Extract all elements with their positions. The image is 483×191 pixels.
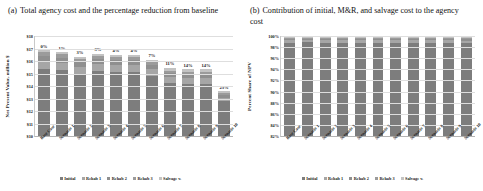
legend-item[interactable]: Salvage v. xyxy=(401,176,424,181)
legend-label: Rehab 2 xyxy=(354,176,369,181)
legend-label: Salvage v. xyxy=(163,176,181,181)
gridline xyxy=(35,36,233,37)
ytick-label: $11 xyxy=(27,121,33,126)
ytick-label: 94% xyxy=(270,67,279,72)
bar-segment-rehab-1 xyxy=(128,65,139,72)
stacked-bar[interactable] xyxy=(182,69,193,136)
gridline xyxy=(35,124,233,125)
bar-segment-initial xyxy=(390,43,401,136)
legend-item[interactable]: Rehab 1 xyxy=(82,176,102,181)
bar-group[interactable] xyxy=(299,36,317,136)
panel-b-title: Contribution of initial, M&R, and salvag… xyxy=(250,6,459,26)
legend-item[interactable]: Salvage v. xyxy=(159,176,182,181)
panel-a-xtick-labels: Base CaseScenario 1Scenario 2Scenario 3S… xyxy=(34,137,233,175)
bar-group[interactable] xyxy=(387,36,405,136)
legend-item[interactable]: Rehab 2 xyxy=(107,176,127,181)
stacked-bar[interactable] xyxy=(461,36,472,136)
panel-b-plot xyxy=(280,36,475,137)
bar-segment-initial xyxy=(56,70,67,136)
legend-label: Rehab 2 xyxy=(112,176,127,181)
panel-b-legend: InitialRehab 1Rehab 2Rehab 3Salvage v. xyxy=(242,172,483,184)
gridline xyxy=(281,36,475,37)
bar-segment-rehab-1 xyxy=(110,65,121,72)
stacked-bar[interactable] xyxy=(337,36,348,136)
stacked-bar[interactable] xyxy=(284,36,295,136)
stacked-bar[interactable] xyxy=(373,36,384,136)
bar-group[interactable] xyxy=(457,36,475,136)
bar-data-label: 14% xyxy=(201,63,210,68)
bar-group[interactable] xyxy=(334,36,352,136)
stacked-bar[interactable] xyxy=(320,36,331,136)
bar-data-label: 14% xyxy=(183,63,192,68)
panel-b-bars xyxy=(281,36,475,136)
legend-swatch-icon xyxy=(133,177,136,180)
bar-group[interactable] xyxy=(404,36,422,136)
bar-segment-initial xyxy=(443,43,454,136)
ytick-label: $17 xyxy=(27,46,33,51)
ytick-label: $18 xyxy=(27,34,33,39)
panel-b-yaxis-title: Percent Share of NPV xyxy=(244,36,254,136)
bar-group[interactable] xyxy=(440,36,458,136)
gridline xyxy=(281,92,475,93)
gridline xyxy=(35,111,233,112)
ytick-label: 96% xyxy=(270,56,279,61)
stacked-bar[interactable] xyxy=(164,68,175,136)
panel-b-xtick-labels: Base CaseScenario 1Scenario 2Scenario 3S… xyxy=(280,137,475,175)
legend-swatch-icon xyxy=(375,177,378,180)
bar-data-label: 3% xyxy=(77,50,84,55)
ytick-label: $16 xyxy=(27,59,33,64)
bar-segment-initial xyxy=(284,43,295,137)
legend-item[interactable]: Initial xyxy=(302,176,318,181)
gridline xyxy=(281,103,475,104)
stacked-bar[interactable] xyxy=(390,36,401,136)
bar-segment-initial xyxy=(74,74,85,136)
bar-segment-initial xyxy=(302,42,313,136)
legend-swatch-icon xyxy=(401,177,404,180)
panel-a: (a)Total agency cost and the percentage … xyxy=(0,0,241,191)
ytick-label: 88% xyxy=(270,100,279,105)
stacked-bar[interactable] xyxy=(200,69,211,136)
ytick-label: $15 xyxy=(27,71,33,76)
legend-item[interactable]: Rehab 2 xyxy=(349,176,369,181)
bar-group[interactable] xyxy=(422,36,440,136)
bar-data-label: 7% xyxy=(149,53,156,58)
ytick-label: 100% xyxy=(268,34,279,39)
bar-group[interactable] xyxy=(369,36,387,136)
legend-item[interactable]: Rehab 1 xyxy=(324,176,344,181)
stacked-bar[interactable] xyxy=(425,36,436,136)
ytick-label: 92% xyxy=(270,78,279,83)
bar-segment-initial xyxy=(92,71,103,136)
ytick-label: 98% xyxy=(270,45,279,50)
bar-group[interactable] xyxy=(281,36,299,136)
gridline xyxy=(35,74,233,75)
stacked-bar[interactable] xyxy=(408,36,419,136)
panel-b-caption: (b)Contribution of initial, M&R, and sal… xyxy=(242,0,483,27)
panel-b-label: (b) xyxy=(250,6,259,15)
gridline xyxy=(281,114,475,115)
bar-group[interactable] xyxy=(316,36,334,136)
bar-segment-rehab-1 xyxy=(92,64,103,71)
bar-data-label: 11% xyxy=(166,61,175,66)
panel-a-ytick-labels: $18$17$16$15$14$13$12$11$10 xyxy=(13,36,33,136)
ytick-label: 82% xyxy=(270,134,279,139)
legend-swatch-icon xyxy=(107,177,110,180)
bar-group[interactable] xyxy=(352,36,370,136)
stacked-bar[interactable] xyxy=(302,36,313,136)
panel-a-yaxis-title: Net Present Value, million $ xyxy=(2,36,12,136)
gridline xyxy=(281,125,475,126)
ytick-label: $14 xyxy=(27,84,33,89)
bar-segment-rehab-1 xyxy=(38,61,49,69)
legend-item[interactable]: Initial xyxy=(60,176,76,181)
panel-a-plot-area: Net Present Value, million $ $18$17$16$1… xyxy=(0,36,241,154)
bar-segment-initial xyxy=(373,43,384,136)
legend-item[interactable]: Rehab 3 xyxy=(375,176,395,181)
gridline xyxy=(35,61,233,62)
stacked-bar[interactable] xyxy=(443,36,454,136)
stacked-bar[interactable] xyxy=(355,36,366,136)
legend-item[interactable]: Rehab 3 xyxy=(133,176,153,181)
bar-segment-initial xyxy=(38,69,49,136)
panel-b: (b)Contribution of initial, M&R, and sal… xyxy=(242,0,483,191)
legend-label: Rehab 1 xyxy=(328,176,343,181)
panel-a-plot: 0%1%3%3%4%4%7%11%14%14%23% xyxy=(34,36,233,137)
gridline xyxy=(281,69,475,70)
